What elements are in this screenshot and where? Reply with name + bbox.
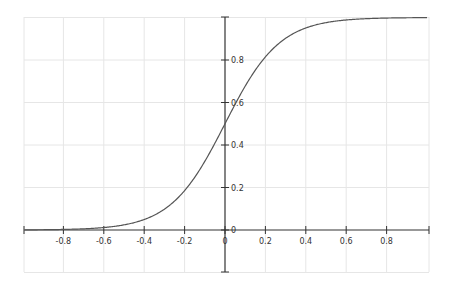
x-tick-label: 0.2 <box>259 237 272 246</box>
y-tick-label: 0.2 <box>231 184 244 193</box>
x-tick-label: 0.4 <box>299 237 312 246</box>
x-tick-label: 0.6 <box>340 237 353 246</box>
x-tick-label: -0.2 <box>177 237 193 246</box>
y-tick-label: 0.4 <box>231 141 244 150</box>
x-tick-label: 0.8 <box>380 237 393 246</box>
x-tick-label: 0 <box>222 237 227 246</box>
tick-labels: -0.8-0.6-0.4-0.200.20.40.60.800.20.40.60… <box>56 56 393 246</box>
y-tick-label: 0.8 <box>231 56 244 65</box>
x-tick-label: -0.6 <box>96 237 112 246</box>
x-tick-label: -0.4 <box>136 237 152 246</box>
y-tick-label: 0 <box>231 226 236 235</box>
sigmoid-curve <box>25 18 427 230</box>
x-tick-label: -0.8 <box>56 237 72 246</box>
sigmoid-chart: -0.8-0.6-0.4-0.200.20.40.60.800.20.40.60… <box>0 0 449 289</box>
